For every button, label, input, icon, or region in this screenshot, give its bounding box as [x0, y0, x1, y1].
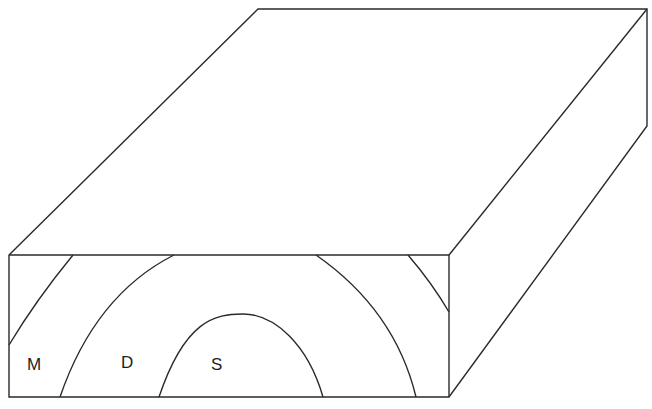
block-front-face — [9, 255, 449, 397]
zone-label-s: S — [211, 356, 222, 373]
block-diagram — [0, 0, 652, 409]
zone-label-d: D — [121, 354, 133, 371]
zone-label-m: M — [27, 356, 41, 373]
